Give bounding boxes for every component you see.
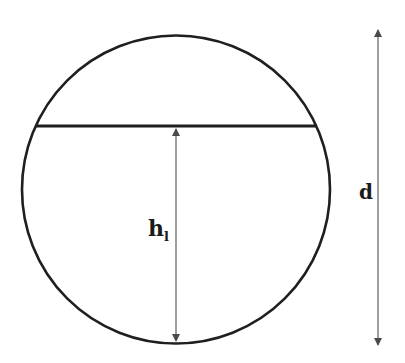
- diameter-label: d: [359, 180, 373, 204]
- pipe-cross-section-diagram: hl d: [0, 0, 405, 363]
- fill-height-label: hl: [148, 215, 169, 244]
